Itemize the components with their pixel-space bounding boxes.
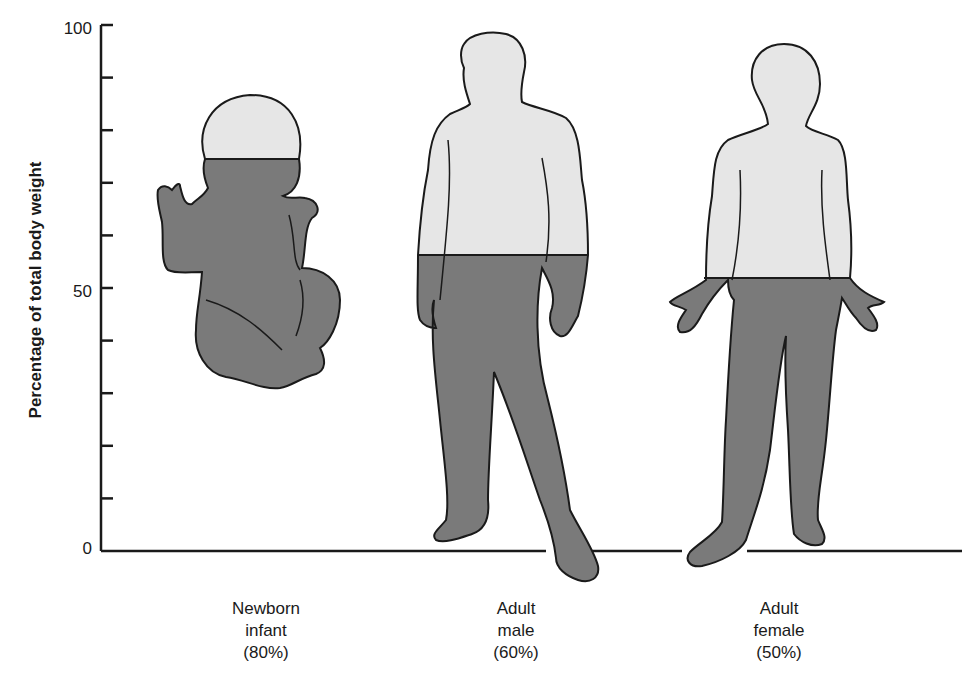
y-tick-0: 0 (52, 539, 92, 559)
y-tick-100: 100 (52, 19, 92, 39)
category-adult-male: Adult male (60%) (446, 598, 586, 664)
y-axis (101, 25, 113, 551)
newborn-infant-figure (157, 95, 340, 388)
adult-female-figure (670, 44, 884, 566)
category-newborn-infant: Newborn infant (80%) (196, 598, 336, 664)
adult-male-figure (418, 32, 599, 581)
category-adult-female: Adult female (50%) (709, 598, 849, 664)
body-water-figure (0, 0, 979, 685)
y-tick-50: 50 (52, 282, 92, 302)
